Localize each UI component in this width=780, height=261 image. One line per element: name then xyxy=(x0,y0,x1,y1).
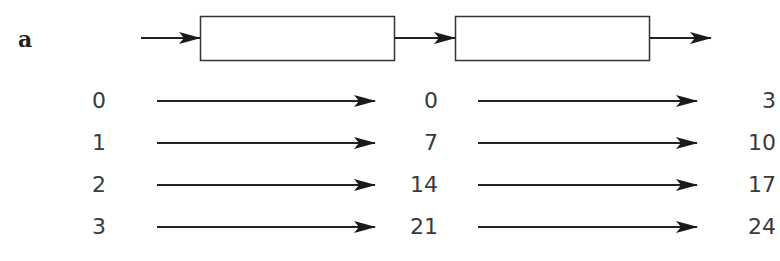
input-value: 3 xyxy=(92,216,106,238)
mid-value: 7 xyxy=(378,132,438,154)
input-value: 2 xyxy=(92,174,106,196)
input-value: 0 xyxy=(92,90,106,112)
mapping-arrows xyxy=(157,101,697,227)
output-value: 10 xyxy=(716,132,776,154)
output-value: 17 xyxy=(716,174,776,196)
output-value: 24 xyxy=(716,216,776,238)
stage-2-box xyxy=(456,17,650,61)
output-value: 3 xyxy=(716,90,776,112)
mid-value: 14 xyxy=(378,174,438,196)
mid-value: 21 xyxy=(378,216,438,238)
stage-1-box xyxy=(201,17,395,61)
mid-value: 0 xyxy=(378,90,438,112)
input-value: 1 xyxy=(92,132,106,154)
